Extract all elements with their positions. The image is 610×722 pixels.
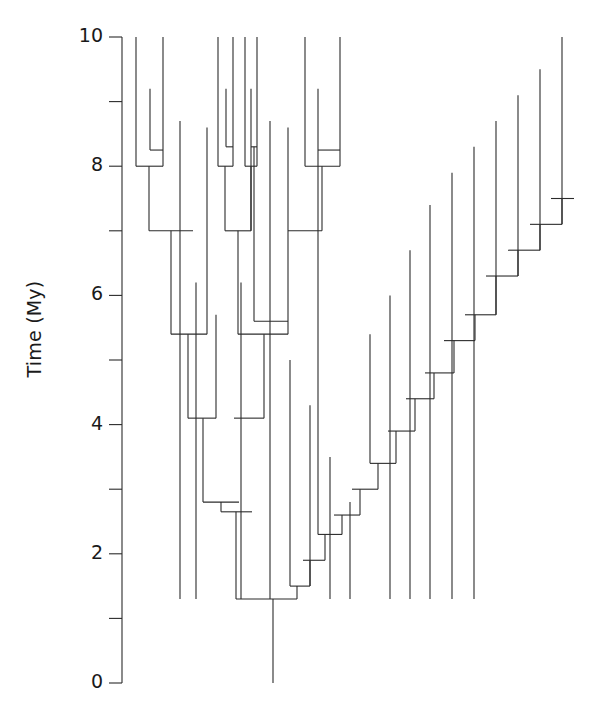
tree-branches (136, 37, 574, 683)
y-axis-tick-label: 8 (63, 153, 103, 175)
y-axis-tick-label: 0 (63, 670, 103, 692)
y-axis-tick-label: 6 (63, 282, 103, 304)
y-axis-title: Time (My) (23, 249, 45, 409)
y-axis-tick-label: 2 (63, 541, 103, 563)
y-axis (109, 37, 122, 683)
figure-canvas: Time (My) 1086420 (0, 0, 610, 722)
phylogenetic-tree-plot (0, 0, 610, 722)
y-axis-tick-label: 4 (63, 412, 103, 434)
y-axis-tick-label: 10 (63, 24, 103, 46)
